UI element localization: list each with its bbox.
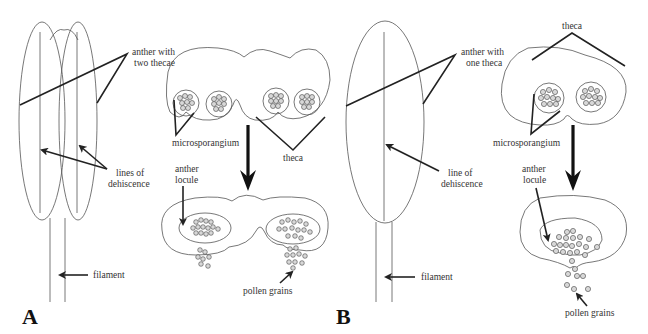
dehiscence-arrow — [387, 145, 439, 171]
dehiscence-label: lines of — [116, 168, 145, 178]
dehiscence-label: line of — [448, 168, 473, 178]
locule-label-2: locule — [523, 175, 546, 185]
panel-a: anther with two thecae lines of dehiscen… — [19, 22, 330, 329]
dehisced-outline — [162, 195, 329, 255]
locule-label: anther — [522, 164, 547, 174]
microsporangium-2 — [206, 91, 232, 117]
dehiscence-label-2: dehiscence — [108, 179, 150, 189]
locule-arrow — [536, 188, 548, 240]
filament-label: filament — [93, 270, 125, 280]
microsporangium-label: microsporangium — [172, 138, 240, 148]
pollen-arrow — [577, 294, 587, 306]
anther-label: anther with — [132, 47, 175, 57]
anther-label: anther with — [461, 47, 504, 57]
theca-label: theca — [283, 153, 304, 163]
cross-section-outline — [166, 48, 330, 121]
microsporangium-label: microsporangium — [493, 138, 561, 148]
dehiscence-label-2: dehiscence — [441, 179, 483, 189]
anther-leader — [20, 54, 127, 105]
theca-leader — [532, 33, 625, 66]
anther-leader — [346, 55, 455, 106]
microsporangium-1 — [534, 83, 564, 113]
panel-letter-b: B — [336, 304, 351, 329]
theca-label: theca — [562, 21, 583, 31]
dehiscence-arrow-left — [42, 150, 107, 169]
anther-label-2: one theca — [466, 58, 503, 68]
single-theca-outline — [346, 21, 424, 223]
pollen-cluster — [551, 228, 599, 291]
anther-label-2: two thecae — [134, 58, 175, 68]
microsporangium-2 — [576, 82, 606, 112]
pollen-label: pollen grains — [565, 308, 615, 318]
locule-label-2: locule — [175, 175, 198, 185]
anther-diagram: anther with two thecae lines of dehiscen… — [0, 0, 648, 334]
pollen-arrow — [280, 272, 292, 283]
cross-section-outline — [501, 47, 626, 125]
left-theca-outline — [19, 22, 65, 220]
locule-label: anther — [175, 164, 200, 174]
microsporangium-3 — [263, 88, 289, 114]
anther-back-outline — [50, 29, 78, 40]
filament-label: filament — [421, 272, 453, 282]
microsporangium-4 — [294, 89, 320, 115]
panel-b: anther with one theca line of dehiscence… — [336, 21, 627, 329]
theca-leader — [256, 117, 325, 150]
pollen-label: pollen grains — [243, 286, 293, 296]
panel-letter-a: A — [22, 304, 38, 329]
